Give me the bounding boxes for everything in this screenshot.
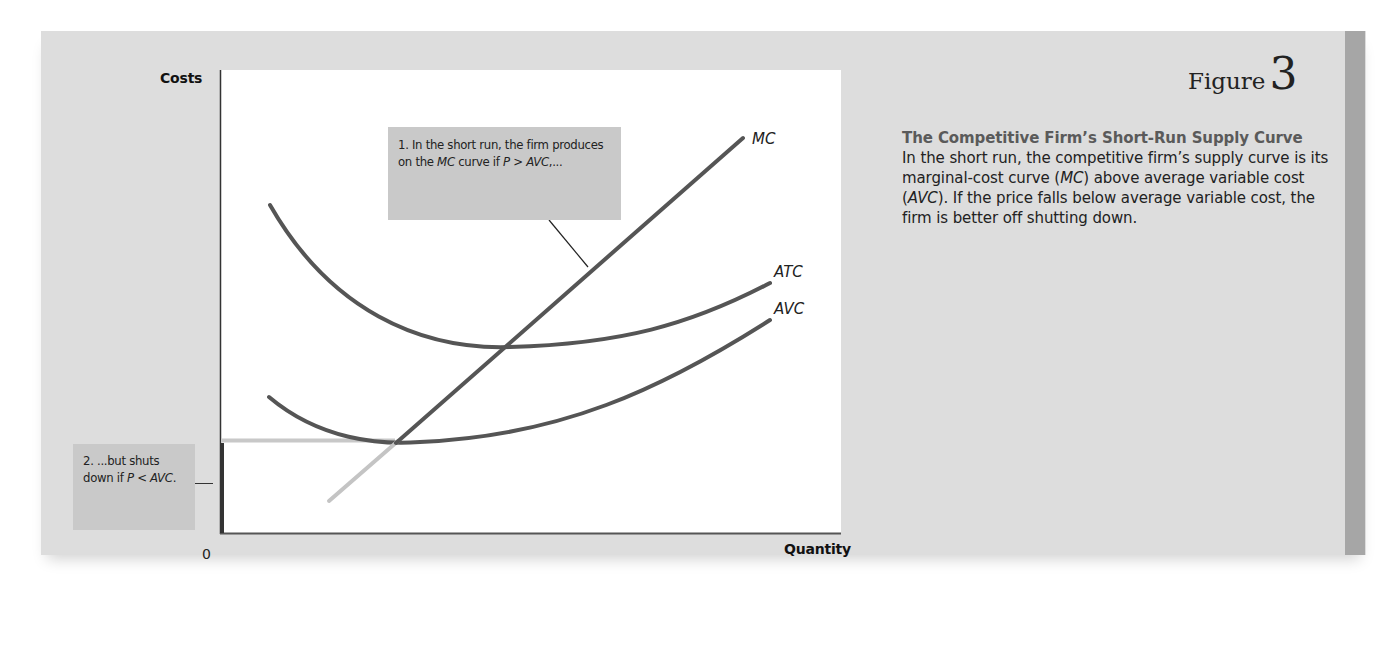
note2-lt: < [134, 470, 150, 485]
note1-avc: AVC [526, 154, 549, 169]
caption-body: In the short run, the competitive firm’s… [902, 148, 1342, 228]
atc-curve [270, 205, 770, 347]
mc-label: MC [752, 130, 775, 148]
x-axis-label: Quantity [784, 541, 851, 557]
atc-label: ATC [774, 263, 803, 281]
avc-label: AVC [774, 300, 804, 318]
note1-mc: MC [437, 154, 455, 169]
y-axis-label: Costs [160, 70, 202, 86]
note2-avc: AVC [150, 470, 173, 485]
figure-caption: The Competitive Firm’s Short-Run Supply … [902, 128, 1342, 228]
avc-curve [269, 320, 770, 443]
note1-ellipsis: ,... [549, 154, 563, 169]
figure-number: 3 [1269, 48, 1297, 99]
figure-label: Figure3 [1188, 52, 1297, 96]
annotation-box-2: 2. ...but shuts down if P < AVC. [73, 444, 195, 530]
annotation-box-1: 1. In the short run, the firm produces o… [388, 127, 621, 220]
note2-p: P [127, 470, 134, 485]
caption-avc: AVC [908, 189, 938, 207]
figure-word: Figure [1188, 68, 1265, 94]
caption-body-3: ). If the price falls below average vari… [902, 189, 1315, 227]
note1-p: P [503, 154, 510, 169]
caption-mc: MC [1060, 169, 1083, 187]
note1-pointer [549, 220, 588, 267]
caption-title: The Competitive Firm’s Short-Run Supply … [902, 128, 1342, 148]
origin-label: 0 [202, 546, 211, 562]
note2-period: . [173, 470, 176, 485]
mc-curve-below-avc [329, 441, 398, 501]
note1-gt: > [510, 154, 526, 169]
note1-text-2: curve if [455, 154, 503, 169]
